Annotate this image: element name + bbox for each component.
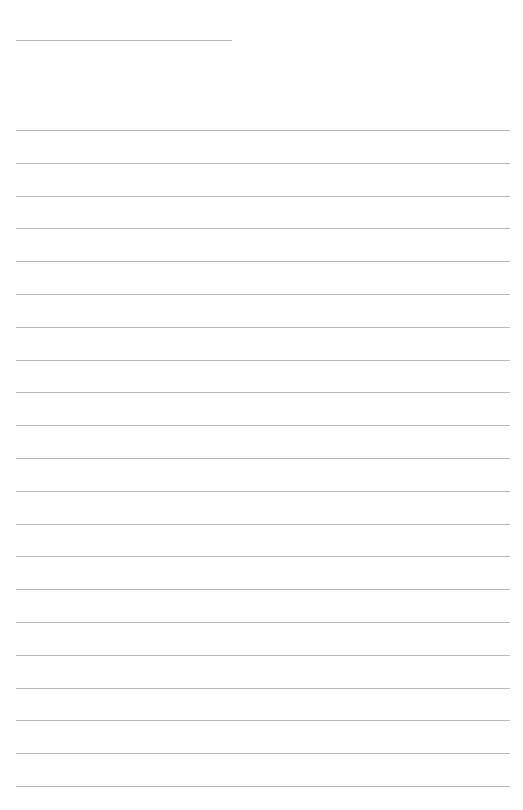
ruled-line: [16, 130, 510, 131]
ruled-line: [16, 392, 510, 393]
ruled-line: [16, 589, 510, 590]
ruled-line: [16, 786, 510, 787]
ruled-line: [16, 688, 510, 689]
ruled-line: [16, 228, 510, 229]
ruled-line: [16, 720, 510, 721]
ruled-line: [16, 196, 510, 197]
ruled-line: [16, 458, 510, 459]
ruled-line: [16, 524, 510, 525]
ruled-line: [16, 163, 510, 164]
ruled-line: [16, 655, 510, 656]
ruled-line: [16, 360, 510, 361]
ruled-line: [16, 622, 510, 623]
ruled-line: [16, 327, 510, 328]
ruled-line: [16, 491, 510, 492]
ruled-line: [16, 425, 510, 426]
ruled-line: [16, 753, 510, 754]
header-name-line: [16, 40, 232, 41]
ruled-line: [16, 556, 510, 557]
ruled-line: [16, 261, 510, 262]
ruled-line: [16, 294, 510, 295]
